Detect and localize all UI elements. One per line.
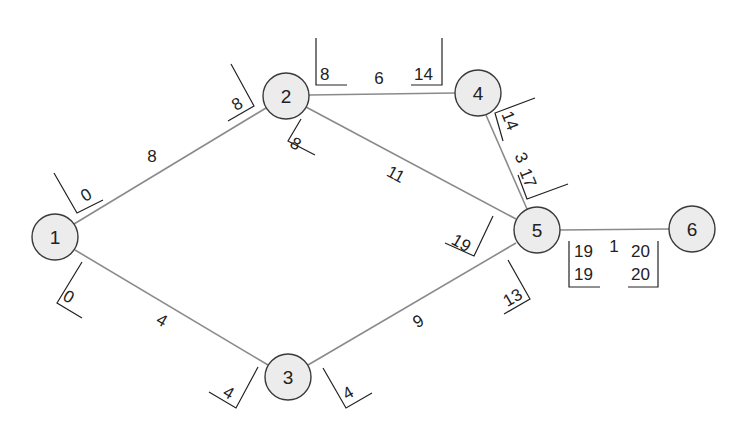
svg-text:6: 6 [687,219,698,240]
bracket-5-6-start: 19 19 [569,241,600,287]
bracket-1-3-start: 0 [57,262,82,318]
svg-text:19: 19 [448,230,474,256]
edge-2-4 [309,93,455,95]
svg-text:3: 3 [283,367,294,388]
node-3: 3 [265,354,311,400]
node-1: 1 [32,214,78,260]
node-2: 2 [263,73,309,119]
duration-3-5: 9 [409,311,427,332]
node-5: 5 [514,207,560,253]
duration-1-3: 4 [153,310,171,331]
node-6: 6 [669,206,715,252]
edge-1-3 [75,250,268,365]
svg-text:20: 20 [631,242,650,261]
bracket-2-4-start: 8 [316,38,347,85]
svg-text:5: 5 [532,220,543,241]
node-4: 4 [455,70,501,116]
duration-5-6: 1 [609,237,618,256]
duration-1-2: 8 [147,147,156,166]
bracket-4-5-end: 17 [515,166,568,199]
edge-1-2 [74,108,266,224]
duration-4-5: 3 [511,150,532,167]
svg-text:17: 17 [515,166,540,191]
bracket-3-5-end: 13 [500,260,530,314]
svg-text:8: 8 [320,65,329,84]
duration-2-5: 11 [384,162,409,187]
edge-3-5 [308,243,516,365]
svg-text:19: 19 [574,242,593,261]
svg-text:14: 14 [414,65,433,84]
bracket-1-3-end: 4 [209,367,258,408]
edge-5-6 [560,229,669,230]
duration-2-4: 6 [374,69,383,88]
bracket-3-5-start: 4 [323,368,372,408]
svg-text:4: 4 [473,83,484,104]
bracket-1-2-end: 8 [228,64,254,121]
svg-text:8: 8 [287,133,305,154]
bracket-1-2-start: 0 [54,173,103,213]
svg-text:20: 20 [631,265,650,284]
svg-text:14: 14 [498,108,523,133]
svg-text:13: 13 [500,285,526,311]
svg-text:0: 0 [60,286,78,307]
bracket-4-5-start: 14 [495,98,535,141]
network-diagram: 8 4 6 11 9 3 1 0 8 0 4 8 14 8 19 [0,0,742,435]
edge-2-5 [306,107,516,219]
svg-text:19: 19 [574,265,593,284]
bracket-2-5-start: 8 [287,119,315,155]
svg-text:1: 1 [50,227,61,248]
bracket-2-4-end: 14 [411,38,442,85]
svg-text:0: 0 [77,184,95,205]
bracket-5-6-end: 20 20 [628,241,658,287]
svg-text:2: 2 [281,86,292,107]
bracket-2-5-end: 19 [445,216,493,256]
